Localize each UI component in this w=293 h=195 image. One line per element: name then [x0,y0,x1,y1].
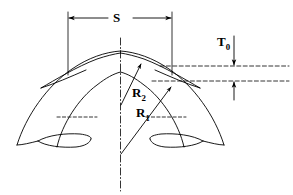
dimension-label-s: S [113,11,120,24]
left-blade-trailing-tail-upper [38,134,91,141]
diagram-canvas [0,0,293,195]
right-blade-leading-sliver [121,53,201,88]
left-blade-leading-sliver [41,53,121,88]
right-blade-trailing-tail-lower [150,139,203,147]
right-blade-trailing-tail-upper [150,134,203,141]
label-r1-subscript: 1 [145,113,149,123]
dimension-label-t0: T0 [217,35,230,51]
left-blade-leading-sliver-lower [41,70,86,88]
left-blade-trailing-tail-lower [38,139,91,147]
left-blade-outer-surface [17,51,121,145]
dimension-label-r2: R2 [132,86,146,102]
dimension-label-r1: R1 [136,106,150,122]
figure-root: S T0 R2 R1 [0,0,293,195]
right-blade-tail-connector [203,141,224,145]
label-t0-subscript: 0 [226,42,230,52]
right-blade-leading-sliver-lower [155,70,200,88]
label-r2-subscript: 2 [141,93,145,103]
left-blade-tail-connector [17,141,38,145]
